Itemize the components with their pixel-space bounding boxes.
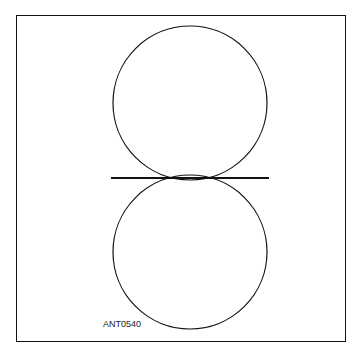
figure-label: ANT0540	[103, 319, 141, 329]
top-circle	[113, 26, 267, 180]
bottom-circle	[113, 175, 267, 329]
diagram	[0, 0, 359, 351]
